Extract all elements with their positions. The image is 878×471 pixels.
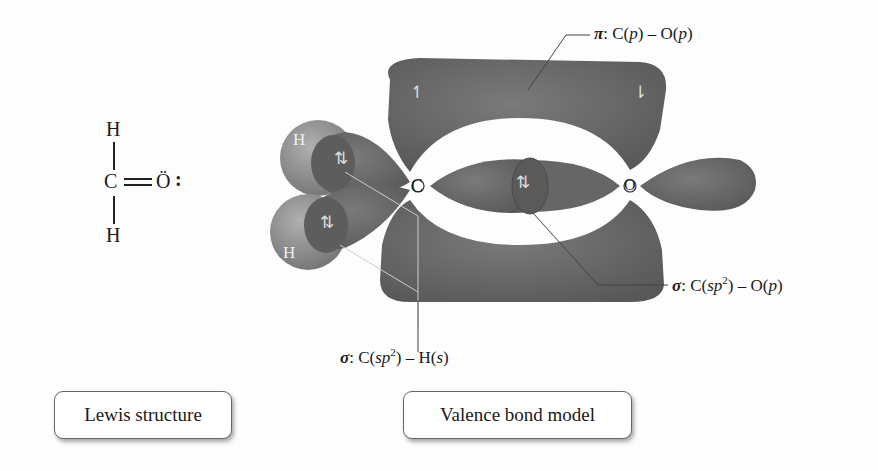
pi-bond-top-lobe — [388, 58, 666, 172]
model-label-h-top: H — [293, 130, 305, 150]
electron-down-pi: ⇂ — [633, 82, 647, 102]
model-label-h-bottom: H — [283, 243, 295, 263]
model-label-carbon: C — [411, 176, 423, 197]
electron-pair-ch-bottom: ⇅ — [320, 212, 334, 232]
model-label-oxygen: O — [624, 176, 636, 194]
label-sigma-ch-bond: σ: C(sp2) – H(s) — [340, 346, 449, 368]
electron-up-pi: ↿ — [410, 82, 424, 102]
caption-valence-bond-model: Valence bond model — [403, 391, 632, 439]
caption-lewis-structure: Lewis structure — [54, 391, 232, 439]
sigma-ch-overlap-top — [311, 135, 355, 191]
label-pi-bond: π: C(p) – O(p) — [594, 24, 693, 44]
oxygen-lone-pair-lobe — [640, 158, 756, 211]
electron-pair-co-sigma: ⇅ — [516, 172, 530, 192]
pi-bond-bottom-lobe — [380, 200, 664, 302]
label-sigma-co-bond: σ: C(sp2) – O(p) — [672, 274, 783, 296]
electron-pair-ch-top: ⇅ — [334, 148, 348, 168]
